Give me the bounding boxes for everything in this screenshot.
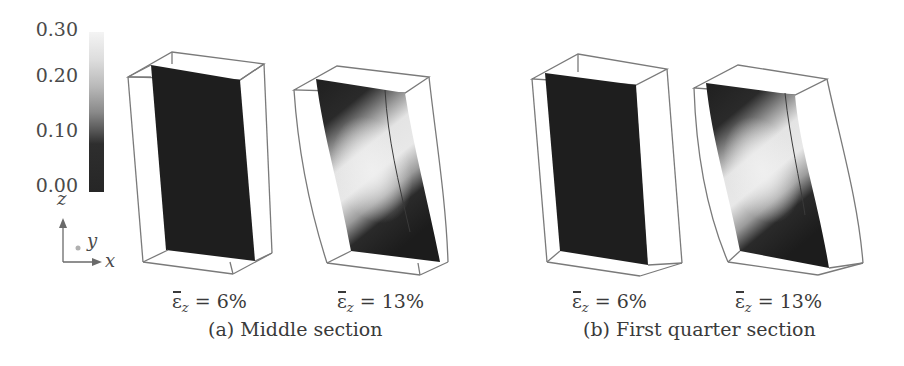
strain-symbol: ε <box>172 290 182 312</box>
panel-a1-section <box>151 65 255 261</box>
strain-symbol: ε <box>572 290 582 312</box>
panel-a1-strain-label: εz = 6% <box>172 290 247 315</box>
caption-b: (b) First quarter section <box>583 318 816 340</box>
caption-a: (a) Middle section <box>208 318 382 340</box>
panel-a2-strain-label: εz = 13% <box>337 290 424 315</box>
figure: 0.30 0.20 0.10 0.00 z y x <box>0 0 904 366</box>
strain-symbol: ε <box>735 290 745 312</box>
panel-b1-section <box>545 73 648 265</box>
strain-symbol: ε <box>337 290 347 312</box>
axis-triad <box>59 218 102 266</box>
panel-b2-strain-label: εz = 13% <box>735 290 822 315</box>
panel-b1-strain-label: εz = 6% <box>572 290 647 315</box>
